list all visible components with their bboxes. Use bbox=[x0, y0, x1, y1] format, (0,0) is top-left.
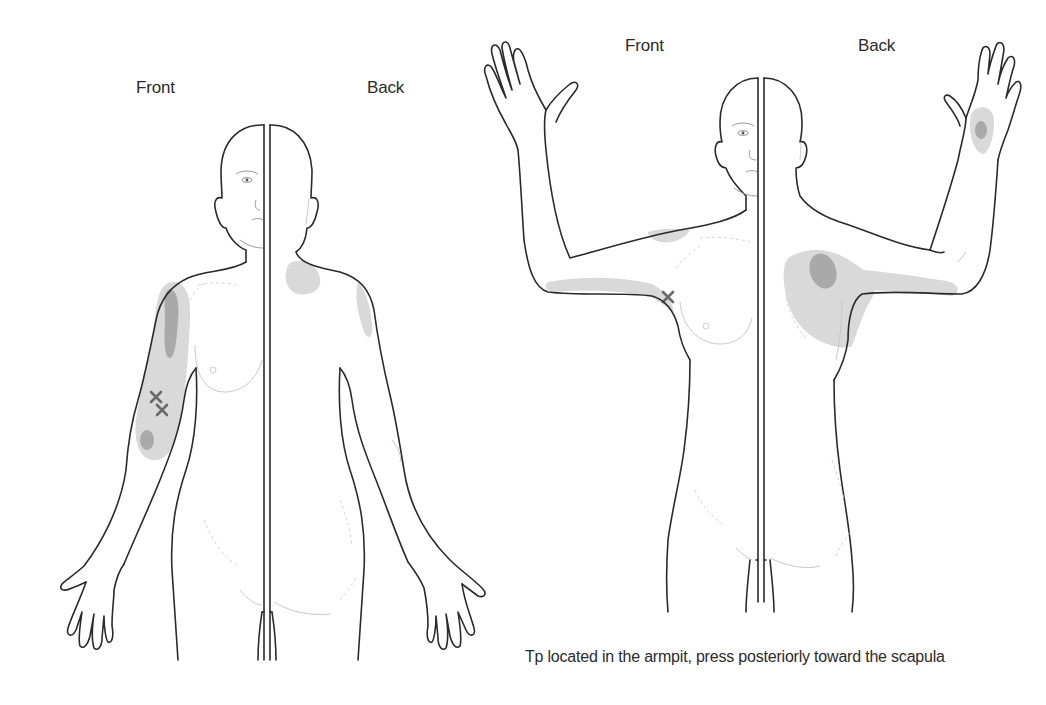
right-back-body-details bbox=[770, 142, 966, 568]
right-primary-pain-zones bbox=[805, 121, 987, 292]
right-body-figure bbox=[0, 0, 1046, 705]
right-front-back-divider bbox=[758, 78, 764, 602]
right-front-body-details bbox=[676, 237, 752, 560]
right-referred-pain-zones bbox=[546, 107, 994, 347]
right-front-outline bbox=[485, 42, 758, 612]
